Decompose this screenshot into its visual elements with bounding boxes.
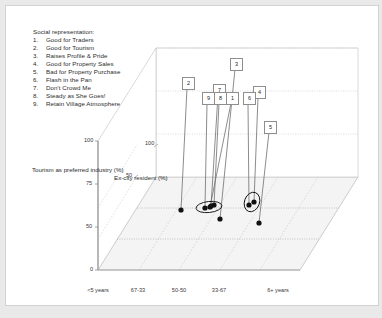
callout-box-3[interactable]: 3 [230,58,243,71]
z-tick-label: 50 [126,172,132,178]
data-point[interactable] [217,216,222,221]
data-point[interactable] [251,199,256,204]
data-point[interactable] [246,202,251,207]
x-tick-label: 67-33 [116,287,160,293]
x-tick-label: 6+ years [256,287,300,293]
x-axis-title: Average residency (% balance) [102,303,302,306]
data-point[interactable] [178,207,183,212]
callout-box-5[interactable]: 5 [264,121,277,134]
z-tick-label: 100 [145,140,154,146]
y-tick-label: 100 [84,137,93,143]
x-tick-label: 50-50 [157,287,201,293]
callout-box-2[interactable]: 2 [182,77,195,90]
callout-box-6[interactable]: 6 [243,92,256,105]
plot-svg [6,6,378,305]
figure-panel: Social representation: 1.Good for Trader… [5,5,379,306]
y-tick-label: 50 [86,223,92,229]
y-tick-label: 75 [86,180,92,186]
y-axis-title: Tourism as preferred industry (%) [32,166,88,174]
data-point[interactable] [202,205,207,210]
x-tick-label: <5 years [76,287,120,293]
data-point[interactable] [207,204,212,209]
y-tick-label: 0 [90,266,93,272]
data-point[interactable] [256,220,261,225]
callout-box-1[interactable]: 1 [226,92,239,105]
z-axis-title: Ex-city resident (%) [114,174,158,182]
x-tick-label: 33-67 [197,287,241,293]
back-wall [156,48,358,177]
